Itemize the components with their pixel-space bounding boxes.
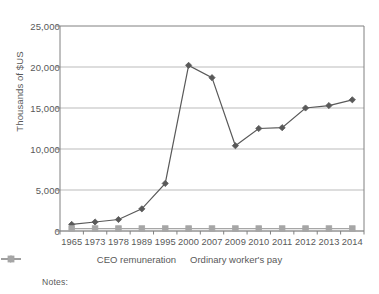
x-axis-tick-1989: 1989 xyxy=(131,237,152,247)
chart-container: Thousands of $US 05,00010,00015,00020,00… xyxy=(0,0,379,294)
x-axis-tick-2012: 2012 xyxy=(295,237,316,247)
legend-item-1[interactable]: CEO remuneration xyxy=(97,254,176,265)
legend-item-2[interactable]: Ordinary worker's pay xyxy=(190,254,282,265)
x-axis-tick-1965: 1965 xyxy=(61,237,82,247)
x-axis-tick-2014: 2014 xyxy=(342,237,363,247)
chart-legend: CEO remunerationOrdinary worker's pay xyxy=(0,254,379,265)
x-axis-tick-1978: 1978 xyxy=(108,237,129,247)
x-axis-tick-2013: 2013 xyxy=(318,237,339,247)
x-axis-tick-2000: 2000 xyxy=(178,237,199,247)
legend-label: Ordinary worker's pay xyxy=(190,254,282,265)
notes-label: Notes: xyxy=(42,277,68,287)
x-axis-tick-1973: 1973 xyxy=(85,237,106,247)
plot-area xyxy=(0,0,379,294)
legend-label: CEO remuneration xyxy=(97,254,176,265)
x-axis-tick-1995: 1995 xyxy=(155,237,176,247)
x-axis-tick-2011: 2011 xyxy=(272,237,292,247)
x-axis-tick-2007: 2007 xyxy=(201,237,222,247)
x-axis-tick-2009: 2009 xyxy=(225,237,246,247)
x-axis-tick-2010: 2010 xyxy=(248,237,269,247)
square-marker-icon xyxy=(0,254,22,264)
